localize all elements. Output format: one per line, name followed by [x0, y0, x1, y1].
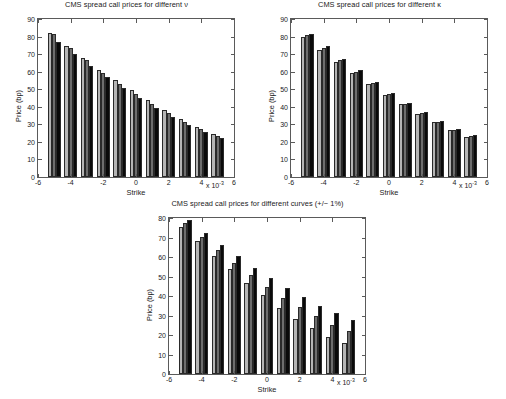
y-tick-label: 20 — [280, 138, 291, 145]
x-tick-label: 2 — [298, 374, 302, 383]
bar-group — [179, 19, 192, 177]
y-tick-mark — [169, 355, 173, 356]
y-tick-mark — [484, 124, 488, 125]
bar-group — [293, 218, 306, 374]
chart-panel-kappa: CMS spread call prices for different κ P… — [253, 0, 506, 199]
bar-group — [228, 218, 241, 374]
y-tick-label: 50 — [280, 86, 291, 93]
x-tick-mark — [324, 19, 325, 23]
y-tick-label: 40 — [27, 103, 38, 110]
y-tick-mark — [484, 54, 488, 55]
y-tick-mark — [38, 159, 42, 160]
x-tick-mark — [103, 174, 104, 178]
bar-group — [350, 19, 363, 177]
x-axis-multiplier-curves: x 10-3 — [337, 377, 355, 386]
x-tick-mark — [267, 218, 268, 222]
x-tick-mark — [234, 371, 235, 375]
y-tick-label: 80 — [280, 33, 291, 40]
y-tick-mark — [291, 124, 295, 125]
x-tick-label: -6 — [166, 374, 172, 383]
y-tick-label: 50 — [27, 86, 38, 93]
x-tick-mark — [300, 218, 301, 222]
y-tick-mark — [362, 355, 366, 356]
y-tick-mark — [291, 142, 295, 143]
x-tick-mark — [169, 19, 170, 23]
x-tick-label: -4 — [68, 177, 74, 186]
x-tick-label: -4 — [199, 374, 205, 383]
x-tick-mark — [389, 174, 390, 178]
y-tick-mark — [484, 142, 488, 143]
y-tick-mark — [362, 316, 366, 317]
bar — [473, 135, 477, 177]
x-tick-label: 6 — [232, 177, 236, 186]
x-axis-label-kappa: Strike — [290, 188, 488, 197]
bar-group — [261, 218, 274, 374]
chart-panel-curves: CMS spread call prices for different cur… — [131, 199, 384, 399]
bar-group — [326, 218, 339, 374]
plot-area-curves: 01020304050607080-6-4-20246 — [168, 217, 366, 375]
y-tick-label: 80 — [158, 215, 169, 222]
y-axis-label-vol: Price (bp) — [14, 90, 23, 122]
chart-title-vol: CMS spread call prices for different ν — [0, 0, 253, 9]
chart-panel-vol: CMS spread call prices for different ν P… — [0, 0, 253, 199]
y-tick-mark — [169, 316, 173, 317]
y-tick-mark — [231, 159, 235, 160]
y-axis-label-kappa: Price (bp) — [267, 90, 276, 122]
bar-group — [448, 19, 461, 177]
bar — [73, 54, 77, 177]
y-tick-label: 10 — [158, 351, 169, 358]
y-tick-label: 80 — [27, 33, 38, 40]
y-tick-mark — [231, 37, 235, 38]
x-tick-mark — [202, 371, 203, 375]
x-tick-mark — [332, 218, 333, 222]
y-tick-mark — [484, 89, 488, 90]
bar-series-group-curves — [169, 218, 365, 374]
chart-title-kappa: CMS spread call prices for different κ — [253, 0, 506, 9]
bar-group — [415, 19, 428, 177]
bar — [187, 125, 191, 177]
y-tick-mark — [291, 72, 295, 73]
bar — [203, 132, 207, 177]
bar-group — [317, 19, 330, 177]
bar — [285, 288, 289, 374]
chart-title-curves: CMS spread call prices for different cur… — [131, 199, 384, 208]
x-tick-mark — [356, 19, 357, 23]
y-tick-mark — [362, 238, 366, 239]
x-tick-label: 0 — [134, 177, 138, 186]
y-tick-mark — [38, 54, 42, 55]
x-tick-mark — [234, 218, 235, 222]
bar-group — [179, 218, 192, 374]
x-tick-mark — [234, 19, 235, 23]
x-tick-mark — [291, 174, 292, 178]
bar — [56, 42, 60, 177]
x-tick-mark — [169, 371, 170, 375]
x-tick-label: 4 — [452, 177, 456, 186]
bar — [318, 306, 322, 374]
bar-group — [310, 218, 323, 374]
bar-group — [212, 218, 225, 374]
x-tick-mark — [300, 371, 301, 375]
bar-group — [130, 19, 143, 177]
plot-area-vol: 0102030405060708090-6-4-20246 — [37, 18, 235, 178]
x-tick-mark — [136, 19, 137, 23]
x-tick-label: -4 — [321, 177, 327, 186]
y-tick-mark — [169, 277, 173, 278]
y-tick-mark — [231, 107, 235, 108]
x-tick-mark — [324, 174, 325, 178]
y-tick-mark — [38, 124, 42, 125]
bar — [220, 245, 224, 374]
bar-group — [277, 218, 290, 374]
x-tick-mark — [38, 19, 39, 23]
y-tick-label: 50 — [158, 273, 169, 280]
x-tick-mark — [454, 19, 455, 23]
y-tick-mark — [38, 89, 42, 90]
y-tick-label: 60 — [158, 254, 169, 261]
x-tick-label: 6 — [485, 177, 489, 186]
bar — [309, 34, 313, 177]
y-tick-mark — [362, 277, 366, 278]
bar-group — [113, 19, 126, 177]
x-axis-multiplier-kappa: x 10-3 — [459, 180, 477, 189]
x-tick-mark — [487, 174, 488, 178]
x-tick-label: 2 — [420, 177, 424, 186]
bar-group — [211, 19, 224, 177]
